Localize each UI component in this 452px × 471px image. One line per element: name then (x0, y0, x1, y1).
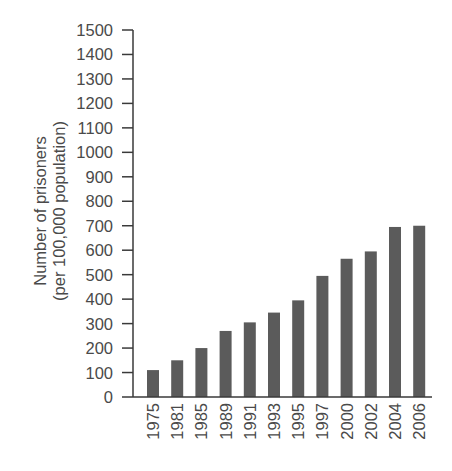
bar-chart: Number of prisoners (per 100,000 populat… (0, 0, 452, 471)
bar-1985 (195, 348, 207, 397)
bar-1995 (292, 300, 304, 397)
y-tick-label: 1000 (76, 143, 113, 161)
x-tick-label: 2002 (362, 403, 380, 440)
y-tick-label: 900 (85, 168, 113, 186)
bar-2006 (413, 226, 425, 397)
bar-1981 (171, 360, 183, 397)
bars (147, 226, 425, 397)
y-tick-label: 1400 (76, 45, 113, 63)
y-tick-label: 1300 (76, 70, 113, 88)
y-tick-label: 300 (85, 315, 113, 333)
y-tick-label: 400 (85, 290, 113, 308)
y-tick-label: 600 (85, 241, 113, 259)
y-tick-label: 1500 (76, 21, 113, 39)
y-tick-label: 800 (85, 192, 113, 210)
y-tick-label: 700 (85, 217, 113, 235)
bar-1991 (244, 322, 256, 397)
bar-1997 (316, 276, 328, 397)
bar-2004 (389, 227, 401, 397)
y-tick-label: 100 (85, 364, 113, 382)
x-tick-label: 2004 (386, 403, 404, 440)
x-tick-label: 1995 (289, 403, 307, 440)
x-tick-label: 1993 (265, 403, 283, 440)
x-tick-label: 1975 (144, 403, 162, 440)
x-tick-label: 1991 (241, 403, 259, 440)
x-tick-label: 1997 (313, 403, 331, 440)
bar-1989 (220, 331, 232, 397)
bar-1975 (147, 370, 159, 397)
bar-2002 (365, 251, 377, 397)
y-axis-title: Number of prisoners (per 100,000 populat… (31, 121, 68, 301)
x-axis: 1975198119851989199119931995199720002002… (133, 397, 432, 440)
y-tick-label: 500 (85, 266, 113, 284)
y-tick-label: 200 (85, 339, 113, 357)
bar-2000 (341, 259, 353, 397)
bar-1993 (268, 313, 280, 397)
y-tick-label: 1100 (78, 119, 113, 137)
x-tick-label: 1989 (217, 403, 235, 440)
y-axis-title-line2: (per 100,000 population) (50, 121, 68, 301)
y-tick-label: 1200 (76, 94, 113, 112)
x-tick-label: 2000 (338, 403, 356, 440)
x-tick-label: 1981 (168, 403, 186, 440)
x-tick-label: 1985 (192, 403, 210, 440)
y-axis-title-line1: Number of prisoners (31, 136, 49, 285)
y-axis: 0100200300400500600700800900100011001200… (76, 21, 133, 406)
y-tick-label: 0 (104, 388, 113, 406)
x-tick-label: 2006 (410, 403, 428, 440)
